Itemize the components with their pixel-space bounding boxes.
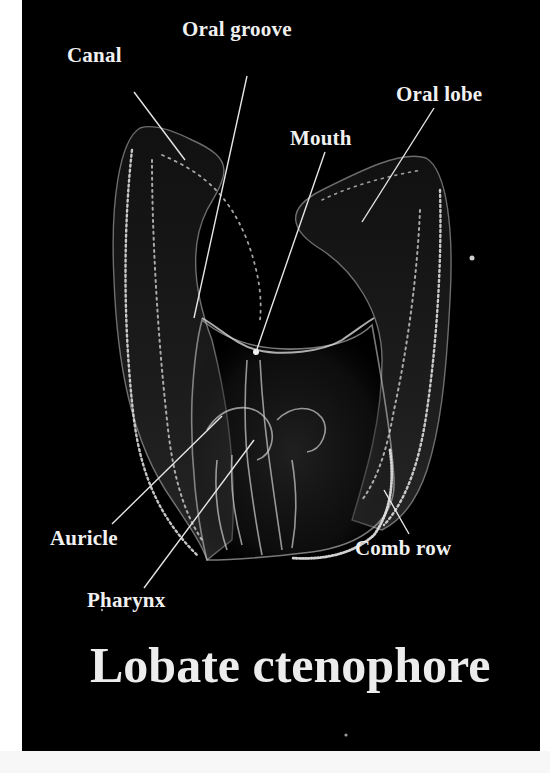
- leader-line-mouth: [256, 152, 325, 352]
- diagram-panel: Canal Oral groove Oral lobe Mouth Auricl…: [22, 0, 540, 751]
- bottom-margin: [0, 751, 550, 773]
- label-auricle: Auricle: [50, 528, 118, 549]
- central-body-shape: [192, 320, 394, 560]
- label-canal: Canal: [67, 45, 122, 66]
- label-oral-lobe: Oral lobe: [396, 84, 482, 105]
- label-mouth: Mouth: [290, 128, 352, 149]
- label-pharynx: Pharynx: [87, 590, 165, 611]
- label-comb-row: Comb row: [355, 538, 451, 559]
- label-oral-groove: Oral groove: [182, 19, 292, 40]
- figure-title: Lobate ctenophore: [90, 640, 490, 690]
